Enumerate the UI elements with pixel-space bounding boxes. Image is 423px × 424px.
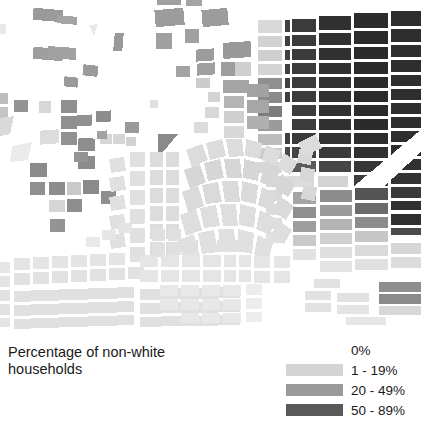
legend-swatch-20-49-percent bbox=[286, 384, 343, 396]
legend-label-0-percent: 0% bbox=[351, 343, 371, 358]
legend-title-line2: households bbox=[8, 361, 258, 378]
legend-label-50-89-percent: 50 - 89% bbox=[351, 403, 405, 418]
legend-swatch-50-89-percent bbox=[286, 404, 343, 416]
legend-title-line1: Percentage of non-white bbox=[8, 344, 258, 361]
map-legend: Percentage of non-white households 0% 1 … bbox=[0, 336, 423, 424]
legend-item-0-percent: 0% bbox=[286, 340, 423, 360]
legend-label-20-49-percent: 20 - 49% bbox=[351, 383, 405, 398]
legend-key-list: 0% 1 - 19% 20 - 49% 50 - 89% bbox=[286, 340, 423, 420]
legend-label-1-19-percent: 1 - 19% bbox=[351, 363, 398, 378]
legend-item-50-89-percent: 50 - 89% bbox=[286, 400, 423, 420]
legend-item-1-19-percent: 1 - 19% bbox=[286, 360, 423, 380]
choropleth-map-figure: Percentage of non-white households 0% 1 … bbox=[0, 0, 423, 424]
legend-title: Percentage of non-white households bbox=[8, 344, 258, 378]
legend-swatch-1-19-percent bbox=[286, 364, 343, 376]
map-canvas bbox=[0, 0, 423, 336]
legend-item-20-49-percent: 20 - 49% bbox=[286, 380, 423, 400]
map-blocks-svg bbox=[0, 0, 423, 336]
legend-swatch-0-percent bbox=[286, 344, 343, 356]
